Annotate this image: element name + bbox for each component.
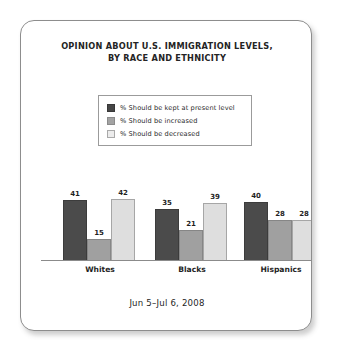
bar-blacks-decreased: [203, 203, 227, 261]
plot-area: 41 15 42 35 21: [43, 181, 311, 261]
bar-slot: 39: [203, 181, 227, 261]
bar-slot: 41: [63, 181, 87, 261]
dark-swatch-icon: [107, 104, 115, 112]
bar-blacks-increased: [179, 230, 203, 261]
bar-value-label: 39: [203, 193, 227, 201]
bar-whites-kept-present-level: [63, 200, 87, 261]
bar-value-label: 28: [268, 210, 292, 218]
bar-group-blacks: 35 21 39: [155, 181, 229, 261]
bar-value-label: 40: [244, 192, 268, 200]
bar-slot: 35: [155, 181, 179, 261]
chart-footer-date-range: Jun 5–Jul 6, 2008: [21, 298, 312, 308]
light-gray-swatch-icon: [107, 130, 115, 138]
mid-gray-swatch-icon: [107, 117, 115, 125]
bar-value-label: 15: [87, 229, 111, 237]
bar-group-hispanics: 40 28 28: [244, 181, 312, 261]
legend-item-kept-present-level: % Should be kept at present level: [107, 101, 244, 114]
bar-whites-increased: [87, 239, 111, 261]
bar-slot: 21: [179, 181, 203, 261]
bar-slot: 28: [268, 181, 292, 261]
chart-title: OPINION ABOUT U.S. IMMIGRATION LEVELS, B…: [21, 41, 312, 64]
legend-item-label: % Should be kept at present level: [120, 104, 235, 112]
chart-card: OPINION ABOUT U.S. IMMIGRATION LEVELS, B…: [20, 20, 312, 331]
bar-whites-decreased: [111, 199, 135, 261]
bar-blacks-kept-present-level: [155, 209, 179, 261]
category-label-blacks: Blacks: [155, 265, 229, 274]
bar-slot: 40: [244, 181, 268, 261]
category-axis-labels: Whites Blacks Hispanics: [43, 265, 311, 279]
chart-page: OPINION ABOUT U.S. IMMIGRATION LEVELS, B…: [0, 0, 340, 361]
bar-hispanics-kept-present-level: [244, 202, 268, 261]
bar-group-whites: 41 15 42: [63, 181, 137, 261]
bar-value-label: 28: [292, 210, 312, 218]
bar-value-label: 42: [111, 189, 135, 197]
legend-item-label: % Should be decreased: [120, 130, 200, 138]
category-label-whites: Whites: [63, 265, 137, 274]
bar-slot: 28: [292, 181, 312, 261]
bar-value-label: 21: [179, 220, 203, 228]
bar-slot: 15: [87, 181, 111, 261]
legend-item-increased: % Should be increased: [107, 114, 244, 127]
legend-item-decreased: % Should be decreased: [107, 127, 244, 140]
bar-value-label: 41: [63, 190, 87, 198]
bar-slot: 42: [111, 181, 135, 261]
bar-hispanics-decreased: [292, 220, 312, 261]
chart-legend: % Should be kept at present level % Shou…: [98, 95, 252, 146]
chart-title-line-1: OPINION ABOUT U.S. IMMIGRATION LEVELS,: [21, 41, 312, 53]
bar-hispanics-increased: [268, 220, 292, 261]
bar-value-label: 35: [155, 199, 179, 207]
chart-title-line-2: BY RACE AND ETHNICITY: [21, 53, 312, 65]
category-label-hispanics: Hispanics: [244, 265, 312, 274]
x-axis-line: [41, 260, 312, 261]
legend-item-label: % Should be increased: [120, 117, 197, 125]
